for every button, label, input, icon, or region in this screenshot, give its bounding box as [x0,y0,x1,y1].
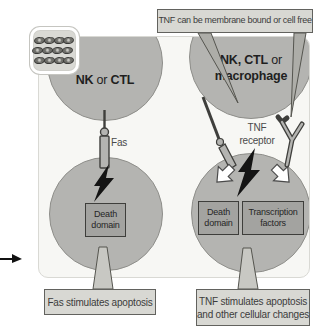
figure-canvas: NK or CTL NK, CTL or macrophage Death do… [0,0,324,336]
death-domain-box-right: Death domain [198,201,239,235]
effector-right-label: NK, CTL or macrophage [189,53,309,84]
tnf-receptor-label: TNF receptor [231,122,283,147]
tnf-callout-line2: and other cellular changes [197,308,309,321]
granule-row [35,37,74,44]
tnf-callout-box: TNF stimulates apoptosis and other cellu… [196,289,310,326]
panel-clip-layer: NK or CTL NK, CTL or macrophage Death do… [39,37,309,277]
top-callout-box: TNF can be membrane bound or cell free [157,9,313,33]
granule [62,46,74,54]
effector-left-label-bold2: CTL [111,73,135,87]
granule [63,56,75,64]
transcription-factors-box: Transcription factors [242,201,304,235]
effector-left-label-bold1: NK [76,73,94,87]
fas-label: Fas [111,137,127,150]
effector-right-label-line2: macrophage [189,69,309,85]
granule-row [35,57,74,64]
effector-left-label: NK or CTL [47,73,163,89]
diagram-panel: NK or CTL NK, CTL or macrophage Death do… [38,36,310,278]
granule-row [32,47,74,54]
fas-callout-text: Fas stimulates apoptosis [47,296,152,309]
tnf-callout-line1: TNF stimulates apoptosis [199,295,307,308]
top-callout-text: TNF can be membrane bound or cell free [158,15,311,27]
effector-right-label-line1: NK, CTL or [189,53,309,69]
pointer-arrow-right-icon [0,254,22,263]
death-domain-box-left: Death domain [85,203,126,237]
tnf-receptor-label-line2: receptor [231,135,283,148]
tnf-receptor-label-line1: TNF [231,122,283,135]
effector-left-label-conj: or [93,73,110,87]
effector-right-bold: NK, CTL [220,53,268,67]
effector-right-normal: or [268,53,282,67]
granule [63,36,75,44]
granule-cluster-icon [30,27,79,74]
fas-callout-box: Fas stimulates apoptosis [44,289,156,315]
